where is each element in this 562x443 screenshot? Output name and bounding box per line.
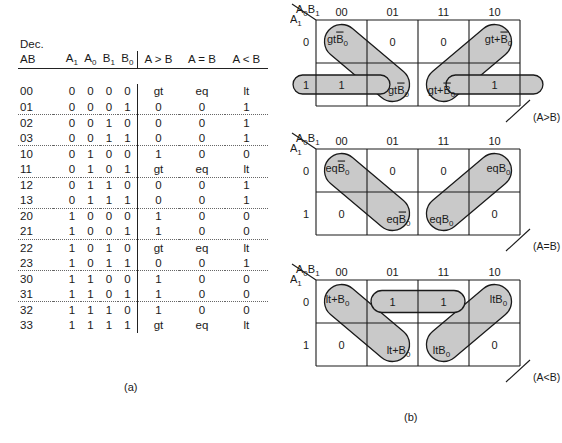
row-bit-3: 0	[118, 240, 137, 256]
row-bit-1: 1	[81, 146, 100, 162]
row-bit-1: 1	[81, 193, 100, 209]
row-output-gt: 0	[137, 193, 179, 209]
kmap-output-label-gt: (A>B)	[533, 111, 560, 123]
kmap-col-header-00: 00	[335, 266, 347, 278]
row-bit-0: 0	[53, 130, 82, 146]
row-bit-0: 1	[53, 208, 82, 224]
table-row: 321110100	[18, 302, 268, 318]
row-ab: 11	[18, 162, 53, 178]
row-ab: 30	[18, 271, 53, 287]
row-bit-2: 1	[100, 255, 119, 271]
row-output-lt: 0	[225, 271, 268, 287]
table-row: 130111001	[18, 193, 268, 209]
row-ab: 23	[18, 255, 53, 271]
kmap-row-header-0: 0	[303, 165, 309, 177]
table-row: 231011001	[18, 255, 268, 271]
kmap-col-header-00: 00	[335, 135, 347, 147]
row-output-eq: 0	[179, 193, 224, 209]
kmap-cell-r1c3: 1	[491, 79, 497, 91]
row-output-gt: 1	[137, 271, 179, 287]
table-row: 201000100	[18, 208, 268, 224]
row-bit-0: 0	[53, 99, 82, 115]
row-bit-3: 0	[118, 208, 137, 224]
row-output-gt: 1	[137, 208, 179, 224]
kmap-cell-r1c3: 0	[491, 339, 497, 351]
row-output-eq: 0	[179, 208, 224, 224]
row-bit-0: 0	[53, 146, 82, 162]
kmap-col-header-10: 10	[488, 266, 500, 278]
row-output-gt: 0	[137, 177, 179, 193]
row-output-eq: eq	[179, 318, 224, 334]
table-row: 100100100	[18, 146, 268, 162]
row-ab: 03	[18, 130, 53, 146]
kmap-output-leader	[506, 229, 530, 251]
row-output-gt: 1	[137, 302, 179, 318]
row-ab: 31	[18, 286, 53, 302]
kmap-row-header-1: 1	[303, 339, 309, 351]
header-output-eq: A = B	[179, 51, 224, 68]
header-bit-3: B0	[118, 51, 137, 68]
kmap-cell-r1c3: 0	[491, 208, 497, 220]
kmap-cell-r0c1: 0	[389, 36, 395, 48]
truth-table: ABA1A0B1B0A > BA = BA < B000000gteqlt010…	[18, 51, 268, 333]
row-bit-1: 1	[81, 271, 100, 287]
figure-b-caption: (b)	[404, 411, 417, 423]
kmap-axis-left-label: A1	[290, 142, 302, 157]
kmap-cell-r0c1: 0	[389, 165, 395, 177]
row-bit-3: 1	[118, 318, 137, 334]
row-bit-0: 1	[53, 318, 82, 334]
row-bit-3: 1	[118, 99, 137, 115]
row-output-eq: 0	[179, 177, 224, 193]
row-output-lt: 0	[225, 146, 268, 162]
row-output-lt: lt	[225, 318, 268, 334]
row-output-lt: 1	[225, 99, 268, 115]
row-ab: 33	[18, 318, 53, 334]
kmap-cell-r0c2: 0	[440, 36, 446, 48]
row-bit-1: 0	[81, 84, 100, 100]
row-output-eq: 0	[179, 286, 224, 302]
kmap-output-leader	[506, 360, 530, 382]
row-ab: 00	[18, 84, 53, 100]
row-bit-1: 1	[81, 177, 100, 193]
row-bit-3: 0	[118, 115, 137, 131]
row-bit-0: 0	[53, 177, 82, 193]
header-bit-2: B1	[100, 51, 119, 68]
row-bit-0: 0	[53, 193, 82, 209]
row-bit-2: 0	[100, 271, 119, 287]
kmap-output-leader	[506, 100, 530, 122]
row-bit-1: 0	[81, 99, 100, 115]
row-output-eq: eq	[179, 162, 224, 178]
row-bit-2: 1	[100, 318, 119, 334]
row-output-lt: 1	[225, 130, 268, 146]
row-bit-1: 0	[81, 130, 100, 146]
row-bit-1: 0	[81, 208, 100, 224]
row-bit-3: 1	[118, 193, 137, 209]
kmap-cell-r0c2: 1	[440, 296, 446, 308]
row-ab: 13	[18, 193, 53, 209]
table-row: 301100100	[18, 271, 268, 287]
row-output-lt: 1	[225, 255, 268, 271]
row-output-lt: lt	[225, 240, 268, 256]
kmap-svg-gt: A0B1A10001111001gtB000gt+B01gtB0gt+B01(A…	[290, 2, 562, 124]
row-bit-3: 0	[118, 84, 137, 100]
gap-cell	[18, 68, 268, 84]
kmap-a-less-b: A0B1A10001111001lt+B011ltB00lt+B0ltB00(A…	[290, 262, 562, 384]
row-output-lt: 1	[225, 177, 268, 193]
row-output-eq: 0	[179, 302, 224, 318]
row-ab: 01	[18, 99, 53, 115]
row-output-eq: eq	[179, 84, 224, 100]
row-bit-0: 0	[53, 115, 82, 131]
row-output-eq: 0	[179, 146, 224, 162]
row-output-eq: 0	[179, 115, 224, 131]
row-output-lt: 0	[225, 286, 268, 302]
row-output-lt: lt	[225, 162, 268, 178]
table-row: 311101100	[18, 286, 268, 302]
row-bit-2: 0	[100, 162, 119, 178]
row-bit-2: 1	[100, 130, 119, 146]
kmap-col-header-11: 11	[438, 6, 449, 18]
kmap-axis-left-label: A1	[290, 13, 302, 28]
kmap-svg-eq: A0B1A10001111001eqB000eqB00eqB0eqB00(A=B…	[290, 131, 562, 253]
row-ab: 02	[18, 115, 53, 131]
row-bit-2: 1	[100, 193, 119, 209]
kmap-axis-top-label: A0B1	[296, 3, 320, 18]
